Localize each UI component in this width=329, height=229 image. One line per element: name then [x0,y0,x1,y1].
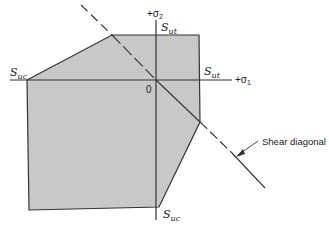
origin-label: 0 [146,84,152,95]
sigma2-axis-label: +σ2 [147,8,163,20]
shear-diagonal-leader [236,141,258,157]
shear-diagonal-label: Shear diagonal [262,136,326,147]
failure-envelope-diagram: +σ2 +σ1 0 Sut Sut Suc Suc Shear diagonal [0,0,329,229]
suc-bottom-label: Suc [163,208,181,223]
sut-top-label: Sut [161,21,178,36]
sut-right-label: Sut [204,65,221,80]
suc-left-label: Suc [10,66,28,81]
sigma1-axis-label: +σ1 [235,74,251,86]
failure-envelope-region [27,35,200,210]
